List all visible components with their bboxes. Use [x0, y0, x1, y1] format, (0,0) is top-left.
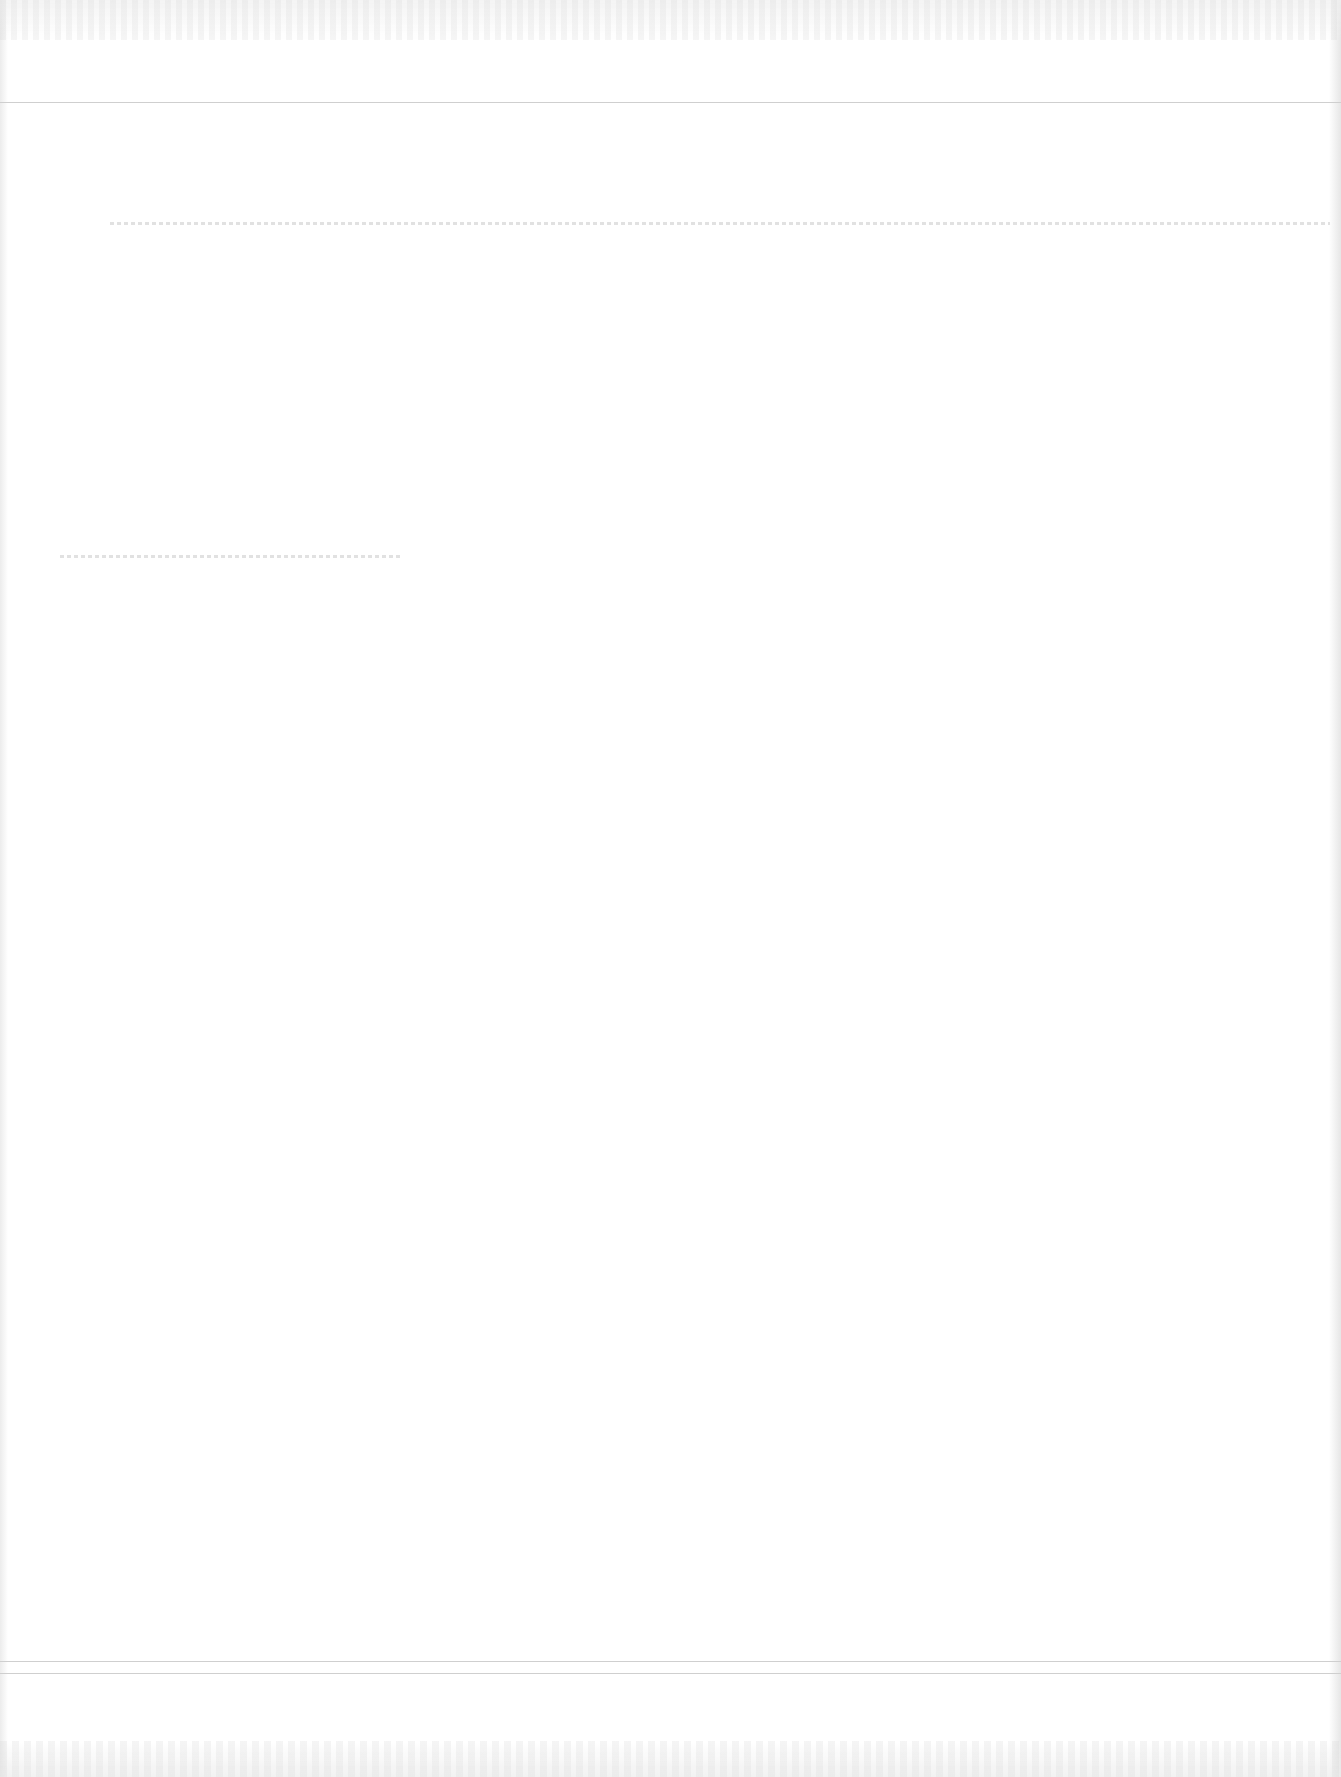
faint-text-line-1 [110, 222, 1330, 225]
faint-text-line-2 [60, 555, 400, 558]
top-rule [0, 102, 1341, 103]
scanned-page [0, 0, 1341, 1777]
bleed-through-top [0, 0, 1341, 40]
bottom-rule-1 [0, 1661, 1341, 1662]
bottom-rule-2 [0, 1673, 1341, 1674]
bleed-through-bottom [0, 1741, 1341, 1777]
scan-edge-left [0, 0, 8, 1777]
scan-edge-right [1329, 0, 1341, 1777]
